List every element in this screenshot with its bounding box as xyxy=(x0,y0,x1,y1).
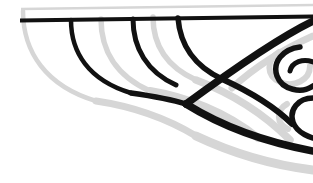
artwork-canvas: Abstract Ornamental Line Flourish Croppe… xyxy=(0,0,313,183)
line-art-svg xyxy=(0,0,313,183)
